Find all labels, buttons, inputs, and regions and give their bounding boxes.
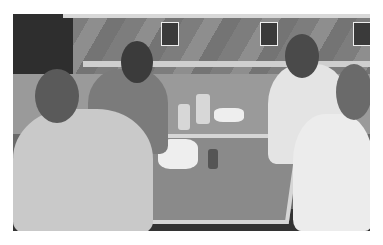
plate [214,108,244,122]
wall-poster [260,22,278,46]
person-3-head [285,34,319,78]
condiment-jar [208,149,218,169]
ceiling-trim [63,14,370,18]
table-items [178,94,268,174]
glass [178,104,190,130]
person-2-head [121,41,153,83]
wall-poster [161,22,179,46]
glass [196,94,210,124]
person-1-head [35,69,79,123]
person-4-body [293,114,370,231]
person-4-head [336,64,370,120]
photograph [13,14,370,231]
wall-poster [353,22,370,46]
person-1-body [13,109,153,231]
